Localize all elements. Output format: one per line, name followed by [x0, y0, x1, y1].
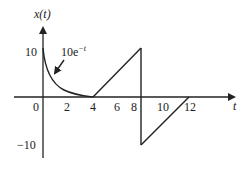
- y-tick-10: 10: [25, 45, 37, 59]
- y-axis-label: x(t): [33, 7, 51, 21]
- x-tick-12: 12: [184, 100, 196, 114]
- annotation-arrow: [55, 60, 64, 73]
- y-tick-neg10: −10: [17, 138, 36, 152]
- ramp-segment-1: [93, 48, 141, 97]
- x-tick-10: 10: [157, 100, 169, 114]
- x-tick-2: 2: [64, 100, 70, 114]
- x-tick-6: 6: [114, 100, 120, 114]
- signal-plot: x(t) t 10 −10 0 2 4 6 8 10 12 10e−t: [0, 0, 248, 169]
- x-tick-8: 8: [131, 100, 137, 114]
- x-tick-0: 0: [33, 100, 39, 114]
- x-axis-label: t: [233, 99, 237, 113]
- x-tick-4: 4: [90, 100, 96, 114]
- annotation-label: 10e−t: [61, 44, 87, 59]
